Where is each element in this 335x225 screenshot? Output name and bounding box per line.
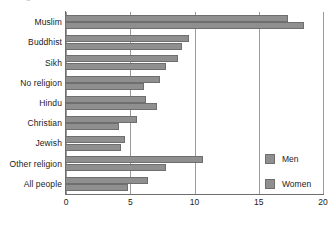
chart-title-remnant: g — [26, 0, 30, 1]
legend-item-women: Women — [265, 175, 333, 192]
bar-jewish-men — [66, 136, 125, 143]
bar-buddhist-men — [66, 35, 189, 42]
category-label-muslim: Muslim — [0, 17, 62, 27]
bar-buddhist-women — [66, 43, 182, 50]
category-label-other-religion: Other religion — [0, 159, 62, 169]
bar-chart: g MuslimBuddhistSikhNo religionHinduChri… — [0, 0, 335, 225]
x-tick-label-5: 5 — [128, 197, 133, 207]
legend-label-women: Women — [282, 179, 311, 189]
legend-swatch-women — [265, 179, 275, 189]
bar-hindu-women — [66, 103, 157, 110]
gridline-10 — [195, 12, 196, 194]
x-tick-label-0: 0 — [64, 197, 69, 207]
gridline-15 — [259, 12, 260, 194]
x-tick-label-15: 15 — [254, 197, 263, 207]
legend-swatch-men — [265, 154, 275, 164]
bar-other-religion-women — [66, 164, 166, 171]
bar-no-religion-women — [66, 83, 144, 90]
bar-christian-men — [66, 116, 137, 123]
bar-hindu-men — [66, 96, 146, 103]
bar-sikh-men — [66, 55, 178, 62]
category-label-sikh: Sikh — [0, 58, 62, 68]
category-label-no-religion: No religion — [0, 78, 62, 88]
category-label-jewish: Jewish — [0, 138, 62, 148]
bar-jewish-women — [66, 144, 121, 151]
category-label-hindu: Hindu — [0, 98, 62, 108]
bar-all-people-women — [66, 184, 128, 191]
bar-sikh-women — [66, 63, 166, 70]
x-tick-label-10: 10 — [190, 197, 199, 207]
category-label-buddhist: Buddhist — [0, 37, 62, 47]
y-axis-line — [65, 11, 66, 195]
chart-legend: Men Women — [265, 150, 333, 200]
category-label-all-people: All people — [0, 179, 62, 189]
bar-all-people-men — [66, 177, 148, 184]
legend-item-men: Men — [265, 150, 333, 167]
bar-no-religion-men — [66, 76, 160, 83]
y-axis-category-labels: MuslimBuddhistSikhNo religionHinduChrist… — [0, 12, 62, 194]
bar-christian-women — [66, 123, 119, 130]
category-label-christian: Christian — [0, 118, 62, 128]
bar-other-religion-men — [66, 156, 203, 163]
bar-muslim-women — [66, 22, 304, 29]
bar-muslim-men — [66, 15, 288, 22]
legend-label-men: Men — [282, 154, 299, 164]
